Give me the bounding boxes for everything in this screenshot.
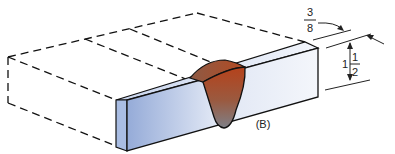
figure-label: (B) — [256, 118, 271, 130]
bar-end-face — [116, 100, 127, 151]
dimension-side-numerator: 1 — [352, 51, 358, 63]
dimension-top: 3 8 — [304, 6, 384, 48]
dimension-side-whole: 1 — [342, 58, 348, 70]
weld-diagram: 3 8 1 1 2 (B) — [0, 0, 395, 154]
dimension-top-numerator: 3 — [307, 6, 313, 18]
dimension-side-denominator: 2 — [352, 66, 358, 78]
dimension-side: 1 1 2 — [325, 42, 370, 90]
dimension-top-denominator: 8 — [307, 22, 313, 34]
